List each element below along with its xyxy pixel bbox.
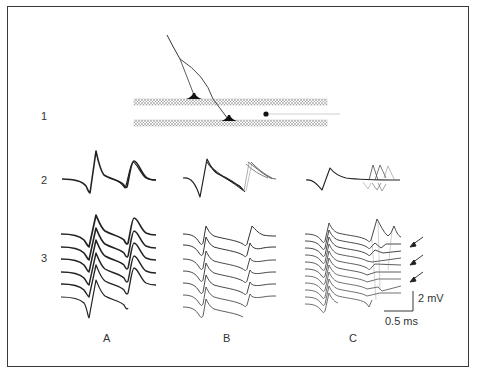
- scale-bar: [384, 291, 413, 311]
- arrow-icon-2: [410, 255, 423, 265]
- axon-band-upper: [134, 99, 327, 105]
- arrow-icon-3: [410, 272, 423, 282]
- arrows: [410, 237, 423, 282]
- presynaptic-fiber: [167, 35, 180, 59]
- row2-panel-c: [306, 165, 400, 191]
- neuron-diagram: [134, 35, 340, 126]
- row3-panel-a: [61, 215, 156, 318]
- synaptic-terminal-lower: [221, 115, 237, 121]
- synaptic-terminal-upper: [186, 93, 202, 99]
- row3-panel-c: [305, 219, 401, 312]
- arrow-icon-1: [410, 237, 423, 247]
- row2-panel-b: [183, 159, 276, 197]
- recording-electrode-dot: [263, 111, 268, 116]
- row3-panel-b: [183, 226, 276, 317]
- figure-graphics: [0, 0, 478, 375]
- fiber-branch-lower: [180, 59, 228, 119]
- row2-panel-a: [62, 151, 156, 193]
